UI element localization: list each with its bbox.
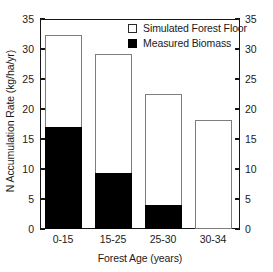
y-tick-label-right-30: 30 <box>245 44 269 54</box>
legend-item-label: Simulated Forest Floor <box>143 22 247 34</box>
y-tick-label-right-0: 0 <box>245 224 269 234</box>
y-tick-right-35 <box>235 18 240 19</box>
bar-measured-biomass <box>145 205 182 229</box>
y-tick-right-0 <box>235 228 240 229</box>
y-tick-label-left-25: 25 <box>10 74 34 84</box>
y-tick-label-left-30: 30 <box>10 44 34 54</box>
y-tick-label-left-10: 10 <box>10 164 34 174</box>
legend-item-label: Measured Biomass <box>143 37 231 49</box>
y-tick-label-right-25: 25 <box>245 74 269 84</box>
y-tick-right-25 <box>235 78 240 79</box>
chart-figure: N Accumulation Rate (kg/ha/yr) 005510101… <box>0 0 273 272</box>
open-square-icon <box>128 24 137 33</box>
y-tick-label-right-5: 5 <box>245 194 269 204</box>
y-tick-right-15 <box>235 138 240 139</box>
y-tick-label-left-0: 0 <box>10 224 34 234</box>
filled-square-icon <box>128 39 137 48</box>
y-tick-label-right-35: 35 <box>245 14 269 24</box>
y-tick-label-right-20: 20 <box>245 104 269 114</box>
y-tick-right-5 <box>235 198 240 199</box>
y-tick-right-20 <box>235 108 240 109</box>
legend-item: Measured Biomass <box>128 36 247 50</box>
y-tick-label-left-35: 35 <box>10 14 34 24</box>
y-tick-label-left-15: 15 <box>10 134 34 144</box>
bar-simulated-forest-floor <box>195 120 232 229</box>
legend-item: Simulated Forest Floor <box>128 21 247 35</box>
y-tick-label-right-15: 15 <box>245 134 269 144</box>
bar-group <box>95 19 132 229</box>
x-axis-title: Forest Age (years) <box>40 252 240 264</box>
y-tick-label-left-5: 5 <box>10 194 34 204</box>
bar-measured-biomass <box>95 173 132 229</box>
y-tick-label-right-10: 10 <box>245 164 269 174</box>
bar-measured-biomass <box>45 127 82 229</box>
legend: Simulated Forest FloorMeasured Biomass <box>128 21 247 51</box>
y-tick-right-10 <box>235 168 240 169</box>
bar-group <box>45 19 82 229</box>
x-tick-label-30-34: 30-34 <box>183 233 243 245</box>
y-tick-label-left-20: 20 <box>10 104 34 114</box>
